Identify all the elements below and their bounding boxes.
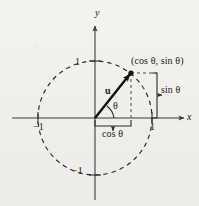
tick-label-x-positive: 1 [150, 122, 155, 132]
cos-bracket [95, 120, 131, 126]
sin-theta-label: sin θ [161, 85, 180, 95]
cos-theta-label: cos θ [102, 129, 123, 139]
tick-label-y-negative: −1 [72, 166, 83, 176]
tick-label-x-negative: −1 [33, 122, 44, 132]
angle-theta-label: θ [113, 101, 118, 111]
terminal-point-dot [128, 70, 133, 75]
tick-label-y-positive: 1 [75, 57, 80, 67]
unit-circle-figure: y x 1 −1 1 −1 (cos θ, sin θ) sin θ cos θ… [0, 0, 199, 206]
figure-canvas [0, 0, 199, 206]
y-axis-label: y [95, 8, 100, 18]
x-axis-label: x [187, 112, 192, 122]
sin-bracket [152, 73, 157, 118]
terminal-point-label: (cos θ, sin θ) [131, 56, 184, 66]
vector-u-arrow [95, 74, 130, 118]
vector-u-label: u [105, 86, 111, 96]
